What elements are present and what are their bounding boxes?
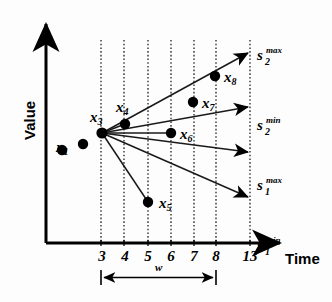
segment-label-s1max-sup: max <box>266 176 282 185</box>
segment-label-s1min-sub: 1 <box>265 247 270 257</box>
point-label-x3-base: x <box>90 109 98 125</box>
point-label-x3: x3 <box>90 110 103 127</box>
point-label-x7-sub: 7 <box>210 102 215 113</box>
segment-label-s1max-base: s <box>257 177 263 193</box>
point-label-x6-sub: 6 <box>188 133 193 144</box>
x-tick-label-4: 4 <box>117 249 133 264</box>
point-label-x6: x6 <box>180 127 193 144</box>
segment-label-s2min-base: s <box>257 117 263 133</box>
segment-label-s2min-sup: min <box>266 116 281 125</box>
point-label-x1-sub: 1 <box>64 146 69 157</box>
point-label-x1-base: x <box>56 139 64 155</box>
x-tick-label-6: 6 <box>163 249 179 264</box>
segment-label-s1max: smax1 <box>257 178 332 193</box>
segment-label-s1min-base: s <box>257 237 263 253</box>
x-tick-label-5: 5 <box>140 249 156 264</box>
figure-container: Value Time 3 4 5 6 7 8 13 w x1 x3 x4 x5 … <box>0 0 332 302</box>
point-label-x3-sub: 3 <box>98 116 103 127</box>
point-label-x7-base: x <box>202 95 210 111</box>
segment-label-s2max-sup: max <box>266 46 282 55</box>
window-width-label: w <box>155 262 162 273</box>
point-x4 <box>120 119 130 129</box>
x-tick-label-3: 3 <box>94 249 110 264</box>
segment-label-s2max-sub: 2 <box>265 57 270 67</box>
point-label-x8-sub: 8 <box>232 76 237 87</box>
point-x3 <box>96 127 107 138</box>
segment-label-s2min: smin2 <box>257 118 332 133</box>
x-tick-label-8: 8 <box>208 249 224 264</box>
point-connectors <box>102 124 171 202</box>
y-axis-title: Value <box>22 101 37 140</box>
point-x7 <box>188 97 198 107</box>
point-label-x4-sub: 4 <box>124 106 129 117</box>
point-label-x5-base: x <box>159 195 167 211</box>
point-label-x4-base: x <box>116 99 124 115</box>
point-label-x8: x8 <box>224 70 237 87</box>
segment-label-s1max-sub: 1 <box>265 187 270 197</box>
point-label-x7: x7 <box>202 96 215 113</box>
point-label-x6-base: x <box>180 126 188 142</box>
segment-label-s2max: smax2 <box>257 48 332 63</box>
point-x2 <box>78 139 88 149</box>
x-axis-title: Time <box>285 251 320 266</box>
point-label-x5: x5 <box>159 196 172 213</box>
x-tick-label-7: 7 <box>186 249 202 264</box>
point-label-x5-sub: 5 <box>167 202 172 213</box>
point-x6 <box>166 128 176 138</box>
segment-label-s1min: smin1 <box>257 238 332 253</box>
segment-label-s2min-sub: 2 <box>265 127 270 137</box>
point-label-x4: x4 <box>116 100 129 117</box>
point-x5 <box>143 197 153 207</box>
point-label-x1: x1 <box>56 140 69 157</box>
point-label-x8-base: x <box>224 69 232 85</box>
segment-label-s1min-sup: min <box>266 236 281 245</box>
point-x8 <box>210 71 220 81</box>
segment-label-s2max-base: s <box>257 47 263 63</box>
